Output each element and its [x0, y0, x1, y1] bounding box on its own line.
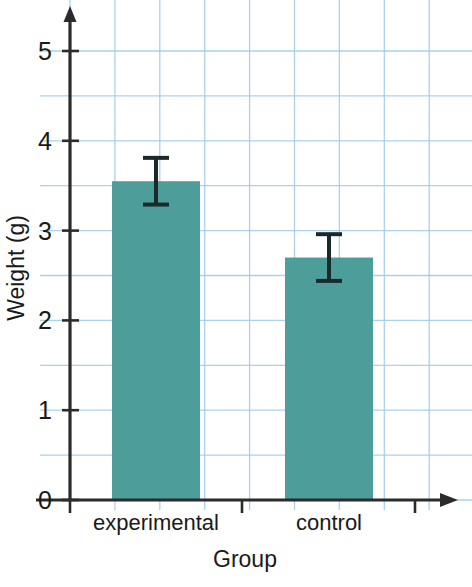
- y-tick-label-3: 3: [38, 217, 52, 245]
- y-tick-label-5: 5: [38, 37, 52, 65]
- category-label-control: control: [296, 510, 362, 535]
- y-axis-title: Weight (g): [3, 215, 29, 321]
- y-tick-label-4: 4: [38, 127, 52, 155]
- x-axis-title: Group: [213, 546, 277, 572]
- bar-chart-figure: 012345 experimental control Group Weight…: [0, 0, 472, 587]
- y-tick-label-2: 2: [38, 306, 52, 334]
- bar-control: [285, 258, 373, 500]
- y-tick-label-0: 0: [38, 486, 52, 514]
- category-label-experimental: experimental: [93, 510, 219, 535]
- bar-experimental: [112, 181, 200, 500]
- y-tick-label-1: 1: [38, 396, 52, 424]
- chart-canvas: 012345 experimental control Group Weight…: [0, 0, 472, 587]
